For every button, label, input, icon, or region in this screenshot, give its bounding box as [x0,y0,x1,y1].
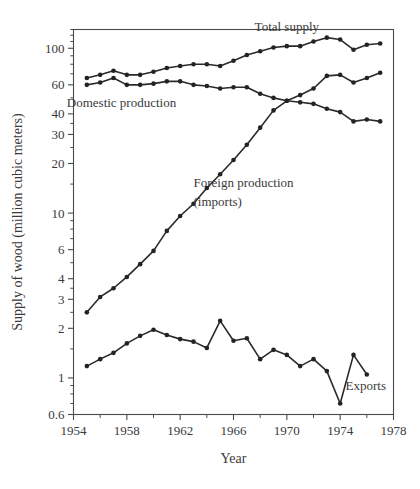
y-axis-tick-label: 3 [58,292,65,307]
data-point [111,286,116,291]
x-axis-tick-label: 1978 [381,423,407,438]
data-point [338,73,343,78]
data-point [151,249,156,254]
data-point [111,76,116,81]
series-label-3-line2: (imports) [194,194,242,209]
line-chart-svg: 1006040302010643210.61954195819621966197… [0,0,420,489]
data-point [365,42,370,47]
data-point [138,73,143,78]
data-point [98,357,103,362]
data-point [338,401,343,406]
series-4 [85,319,370,406]
series-label-2: Domestic production [67,95,177,110]
data-point [218,64,223,69]
y-axis-tick-label: 2 [58,321,65,336]
data-point [285,99,290,104]
data-point [191,62,196,67]
data-point [165,333,170,338]
data-point [365,76,370,81]
data-point [311,357,316,362]
data-point [125,341,130,346]
y-axis-tick-label: 10 [52,206,65,221]
data-point [351,47,356,52]
data-point [311,86,316,91]
data-point [298,364,303,369]
data-point [98,73,103,78]
data-point [271,348,276,353]
x-axis-tick-label: 1962 [167,423,193,438]
y-axis-tick-label: 1 [58,370,65,385]
data-point [165,229,170,234]
data-point [205,62,210,67]
y-axis-tick-label: 30 [52,127,65,142]
data-point [325,35,330,40]
data-point [271,96,276,101]
data-point [191,83,196,88]
data-point [231,158,236,163]
data-point [258,91,263,96]
series-1 [85,35,383,80]
data-point [258,125,263,130]
data-point [138,262,143,267]
data-point [245,142,250,147]
x-axis-tick-label: 1958 [114,423,140,438]
data-point [325,106,330,111]
x-axis-tick-label: 1954 [61,423,88,438]
data-point [231,339,236,344]
data-point [311,102,316,107]
series-label-4: Exports [346,378,386,393]
data-point [365,117,370,122]
data-point [245,53,250,58]
data-point [325,369,330,374]
data-point [165,79,170,84]
data-point [285,353,290,358]
data-point [138,334,143,339]
data-point [111,69,116,74]
data-point [178,214,183,219]
y-axis-tick-label: 4 [58,271,65,286]
data-point [365,372,370,377]
series-line [87,321,367,404]
data-point [178,337,183,342]
data-point [178,79,183,84]
data-point [285,44,290,49]
data-point [191,339,196,344]
x-axis-title: Year [221,451,247,466]
data-point [125,83,130,88]
data-point [311,39,316,44]
data-point [205,346,210,351]
data-point [245,336,250,341]
data-point [178,64,183,69]
data-point [258,357,263,362]
data-point [205,84,210,89]
data-point [351,353,356,358]
y-axis-tick-label: 60 [52,77,65,92]
data-point [351,119,356,124]
series-line [87,38,380,78]
data-point [338,110,343,115]
data-point [98,80,103,85]
data-point [125,275,130,280]
data-point [378,71,383,76]
data-point [151,81,156,86]
data-point [85,83,90,88]
data-point [151,327,156,332]
data-point [165,66,170,71]
data-point [85,364,90,369]
y-axis-tick-label: 6 [58,242,65,257]
data-point [298,93,303,98]
data-point [125,73,130,78]
data-point [271,108,276,113]
x-axis-tick-label: 1974 [327,423,354,438]
data-point [138,83,143,88]
data-point [258,49,263,54]
data-point [378,119,383,124]
data-point [245,85,250,90]
y-axis-tick-label: 20 [52,156,65,171]
data-point [298,44,303,49]
y-axis-tick-label: 0.6 [48,407,65,422]
data-point [271,45,276,50]
series-label-1: Total supply [255,19,320,34]
data-point [298,100,303,105]
data-point [218,86,223,91]
